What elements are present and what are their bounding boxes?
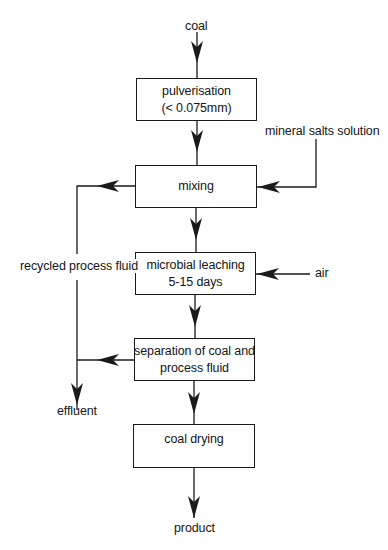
mineral-salts-line [257, 139, 316, 187]
recycled-process-fluid-label: recycled process fluid [20, 259, 138, 273]
step-pulverisation-detail: (< 0.075mm) [161, 100, 231, 117]
coal-input-label: coal [185, 19, 208, 33]
step-pulverisation: pulverisation (< 0.075mm) [136, 78, 257, 121]
mixing-recycle-line [77, 186, 135, 254]
step-mixing: mixing [135, 165, 257, 208]
step-microbial-leaching-duration: 5-15 days [169, 274, 223, 291]
coal-desulfurisation-flow-diagram: coal mineral salts solution air pulveris… [0, 0, 388, 550]
product-output-label: product [174, 521, 215, 535]
step-pulverisation-title: pulverisation [162, 83, 231, 100]
step-mixing-title: mixing [178, 178, 214, 195]
mineral-salts-label: mineral salts solution [265, 124, 380, 138]
step-microbial-leaching-title: microbial leaching [146, 257, 244, 274]
step-separation-title-cont: process fluid [160, 360, 229, 377]
step-separation: separation of coal and process fluid [134, 338, 255, 381]
step-coal-drying-title: coal drying [164, 431, 223, 448]
air-input-label: air [315, 266, 329, 280]
effluent-label: effluent [57, 404, 97, 418]
step-coal-drying: coal drying [133, 424, 255, 468]
step-separation-title: separation of coal and [134, 343, 255, 360]
step-microbial-leaching: microbial leaching 5-15 days [135, 252, 256, 295]
